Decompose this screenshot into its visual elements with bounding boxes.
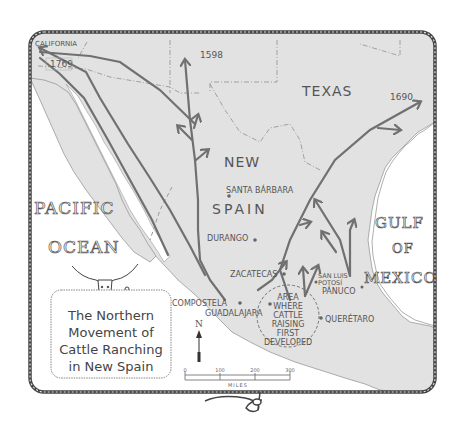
svg-text:RAISING: RAISING	[272, 320, 305, 329]
svg-text:The Northern: The Northern	[67, 308, 154, 323]
label-guadalajara: GUADALAJARA	[205, 309, 263, 318]
compass-n-label: N	[195, 319, 203, 329]
cattle-ranching-map: CALIFORNIA 1769 1598 TEXAS 1690 NEW SPAI…	[0, 0, 462, 441]
city-dot-queretaro	[319, 316, 323, 320]
label-date-1769: 1769	[50, 59, 73, 69]
label-spain: SPAIN	[212, 201, 268, 217]
svg-text:CATTLE: CATTLE	[273, 311, 303, 320]
rope-knot-icon	[205, 392, 262, 412]
label-of: OF	[392, 241, 414, 256]
label-santa-barbara: SANTA BÁRBARA	[226, 184, 294, 195]
label-new: NEW	[224, 154, 260, 170]
city-dot-durango	[253, 238, 257, 242]
city-dot-zacatecas	[282, 272, 286, 276]
label-compostela: COMPOSTELA	[172, 299, 228, 308]
svg-text:DEVELOPED: DEVELOPED	[264, 338, 312, 347]
svg-text:FIRST: FIRST	[277, 329, 300, 338]
svg-text:100: 100	[215, 367, 225, 373]
label-zacatecas: ZACATECAS	[230, 270, 277, 279]
label-date-1690: 1690	[390, 92, 413, 102]
svg-text:Movement of: Movement of	[68, 325, 154, 340]
label-potosi: POTOSÍ	[318, 278, 342, 287]
label-ocean: OCEAN	[48, 237, 120, 257]
city-dot-guadalajara	[268, 302, 272, 306]
city-dot-san-luis-potosi	[315, 281, 318, 284]
label-date-1598: 1598	[200, 50, 223, 60]
svg-text:Cattle Ranching: Cattle Ranching	[59, 342, 162, 357]
label-california: CALIFORNIA	[35, 40, 77, 48]
label-panuco: PÁNUCO	[322, 285, 356, 296]
label-queretaro: QUERÉTARO	[325, 313, 374, 324]
label-gulf: GULF	[375, 214, 424, 232]
label-durango: DURANGO	[207, 234, 248, 243]
svg-text:in New Spain: in New Spain	[69, 359, 154, 374]
svg-text:0: 0	[183, 367, 186, 373]
svg-text:200: 200	[250, 367, 260, 373]
city-dot-panuco	[361, 286, 364, 289]
svg-text:MILES: MILES	[228, 382, 248, 388]
label-mexico: MEXICO	[364, 269, 437, 287]
label-pacific: PACIFIC	[34, 198, 114, 218]
svg-text:AREA: AREA	[277, 293, 299, 302]
city-dot-compostela	[238, 301, 242, 305]
label-texas: TEXAS	[301, 83, 352, 99]
svg-text:300: 300	[285, 367, 295, 373]
svg-text:WHERE: WHERE	[273, 302, 303, 311]
